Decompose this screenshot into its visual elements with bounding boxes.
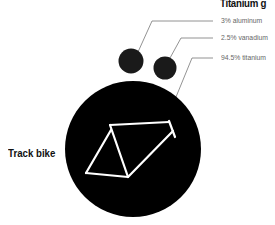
aluminum-circle (119, 49, 144, 74)
label-titanium: 94.5% titanium (221, 53, 266, 62)
label-aluminum: 3% aluminum (221, 16, 262, 25)
leader-line-vanadium (170, 38, 213, 58)
titanium-circle (65, 81, 201, 217)
label-vanadium: 2.5% vanadium (221, 33, 268, 42)
leader-line-titanium (176, 58, 213, 97)
track-bike-label: Track bike (8, 147, 55, 159)
chart-title: Titanium g (220, 0, 266, 9)
vanadium-circle (154, 57, 177, 80)
